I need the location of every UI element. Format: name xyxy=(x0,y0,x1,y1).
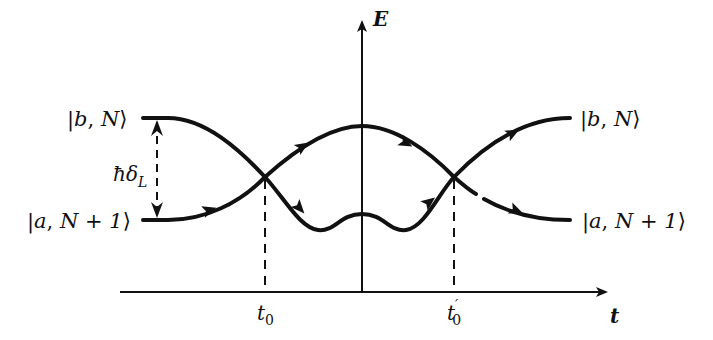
right-lower-state-label: |a, N + 1⟩ xyxy=(582,209,686,234)
energy-axis-label: E xyxy=(372,7,389,31)
left-lower-state-label: |a, N + 1⟩ xyxy=(27,209,131,234)
adiabatic-upper-curve-tail xyxy=(484,199,570,220)
time-axis-label: t xyxy=(610,304,620,328)
detuning-gap-indicator xyxy=(151,120,163,218)
adiabatic-upper-curve xyxy=(143,126,476,220)
energy-crossing-diagram: E t t0 t′0 ħδL |b, N⟩ |a, N + 1⟩ |b, N⟩ … xyxy=(0,0,713,340)
curve-direction-arrows xyxy=(201,124,525,219)
right-upper-state-label: |b, N⟩ xyxy=(580,107,640,132)
detuning-label: ħδL xyxy=(113,162,147,190)
t0-prime-label: t′0 xyxy=(447,297,461,328)
arrow-icon xyxy=(504,124,522,141)
t0-label: t0 xyxy=(257,301,274,328)
left-upper-state-label: |b, N⟩ xyxy=(67,107,127,132)
